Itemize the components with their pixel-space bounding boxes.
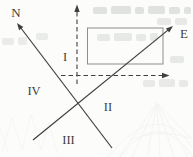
east-axis-label: E	[180, 26, 188, 41]
textbook-figure-scan: N E I II III IV	[0, 0, 193, 157]
bleedthrough-text-artifact-top	[93, 6, 191, 25]
diagram-canvas: N E I II III IV	[0, 0, 193, 157]
bleedthrough-layer	[0, 6, 193, 157]
horizontal-axis-arrowhead-icon	[162, 73, 170, 78]
region-label-2: II	[104, 100, 112, 114]
region-label-1: I	[63, 50, 67, 64]
region-label-4: IV	[27, 84, 40, 98]
vertical-axis-arrowhead-icon	[74, 5, 79, 13]
bleedthrough-text-artifact-left	[2, 33, 48, 45]
diagram-layer: N E I II III IV	[11, 5, 188, 149]
bleedthrough-zigzag-artifact	[0, 114, 57, 153]
north-axis-label: N	[11, 5, 21, 20]
bleedthrough-text-artifact-mid	[97, 33, 184, 63]
region-label-3: III	[62, 133, 75, 147]
bleedthrough-globe-artifact	[108, 103, 193, 157]
bleedthrough-text-artifact-right	[143, 79, 188, 87]
